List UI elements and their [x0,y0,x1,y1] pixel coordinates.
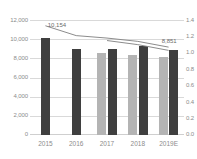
series-line-upper [45,26,168,47]
ytick-left-8000: 8,000 [13,55,28,62]
ytick-right-1-2: 1.2 [186,33,194,40]
xtick-2017: 2017 [92,140,123,148]
xtick-2018: 2018 [122,140,153,148]
ytick-right-0-6: 0.6 [186,82,194,89]
xtick-2016: 2016 [61,140,92,148]
ytick-left-0: 0 [25,131,28,138]
xtick-2019e: 2019E [153,140,184,148]
label-2019e-dark-bar: 8,851 [162,38,177,45]
ytick-left-12000: 12,000 [10,17,28,24]
xtick-2015: 2015 [30,140,61,148]
ytick-right-0-0: 0.0 [186,131,194,138]
ytick-right-1-0: 1.0 [186,49,194,56]
ytick-left-2000: 2,000 [13,112,28,119]
ytick-left-10000: 10,000 [10,36,28,43]
chart-container: 12,000 10,000 8,000 6,000 4,000 2,000 0 … [0,0,197,159]
ytick-left-6000: 6,000 [13,74,28,81]
ytick-left-4000: 4,000 [13,93,28,100]
ytick-right-0-4: 0.4 [186,99,194,106]
ytick-right-0-8: 0.8 [186,66,194,73]
ytick-right-1-4: 1.4 [186,17,194,24]
label-2015-dark-bar: 10,154 [48,22,66,29]
ytick-right-0-2: 0.2 [186,115,194,122]
